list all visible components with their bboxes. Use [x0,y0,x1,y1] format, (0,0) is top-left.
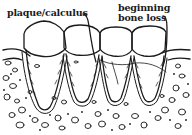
plaque-calculus-label: plaque/calculus [7,8,88,18]
dental-diagram: plaque/calculus beginning bone loss [0,0,192,135]
tooth-1 [22,21,67,113]
tooth-3 [99,27,134,106]
beginning-bone-loss-label: beginning bone loss [118,3,170,23]
bone-line [3,58,190,60]
tooth-4 [131,26,167,106]
bone-loss-label-line2: bone loss [118,13,170,23]
